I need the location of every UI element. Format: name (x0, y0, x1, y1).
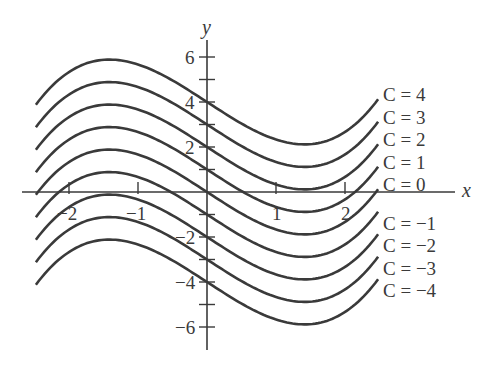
curve-label: C = −1 (383, 213, 436, 234)
chart-canvas: xy−2−112−6−4−2246 C = 4C = 3C = 2C = 1C … (0, 0, 501, 367)
curve-label: C = 4 (383, 84, 426, 105)
x-tick-label: −1 (126, 203, 146, 224)
curve-label: C = −4 (383, 280, 437, 301)
y-tick-label: 2 (185, 137, 195, 158)
plot-svg: xy−2−112−6−4−2246 C = 4C = 3C = 2C = 1C … (0, 0, 501, 367)
curve-label: C = 2 (383, 129, 425, 150)
x-axis-label: x (461, 179, 471, 201)
y-tick-label: −4 (175, 272, 196, 293)
y-tick-label: 6 (185, 47, 195, 68)
y-tick-label: −2 (175, 227, 195, 248)
y-tick-label: −6 (175, 317, 195, 338)
curve-label: C = 3 (383, 107, 425, 128)
x-tick-label: −2 (57, 203, 77, 224)
curve-label: C = −3 (383, 258, 436, 279)
curve-label: C = 1 (383, 152, 425, 173)
y-axis-label: y (200, 16, 211, 39)
curve-label: C = 0 (383, 174, 425, 195)
x-tick-label: 1 (272, 203, 282, 224)
y-tick-label: 4 (185, 92, 195, 113)
curve-label: C = −2 (383, 235, 436, 256)
x-tick-label: 2 (341, 203, 351, 224)
